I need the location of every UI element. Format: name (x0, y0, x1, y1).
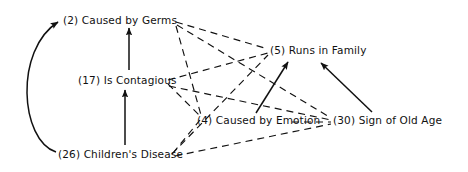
edge-n2-n5 (176, 22, 268, 49)
concept-diagram: (2) Caused by Germs (5) Runs in Family (… (0, 0, 468, 172)
edge-n17-n5 (168, 53, 268, 80)
node-is-contagious[interactable]: (17) Is Contagious (78, 74, 177, 86)
edge-n2-n4 (176, 26, 201, 115)
node-caused-by-emotion[interactable]: (4) Caused by Emotion (197, 114, 320, 126)
edge-n30-n5 (321, 63, 372, 112)
node-childrens-disease[interactable]: (26) Children's Disease (58, 148, 183, 160)
edge-n26-n2-curved (27, 22, 58, 152)
node-caused-by-germs[interactable]: (2) Caused by Germs (63, 14, 177, 26)
edge-n4-n5 (256, 62, 288, 113)
edge-n26-n5 (172, 55, 268, 154)
node-runs-in-family[interactable]: (5) Runs in Family (270, 44, 367, 56)
node-sign-of-old-age[interactable]: (30) Sign of Old Age (333, 114, 442, 126)
edge-n26-n30 (175, 124, 331, 156)
